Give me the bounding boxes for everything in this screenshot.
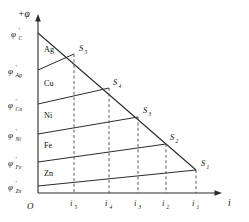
i-symbol-4: i <box>105 198 108 208</box>
band-label-ag: Ag <box>44 45 54 54</box>
band-label-cu: Cu <box>44 79 54 88</box>
anodic-line-ag <box>38 54 74 70</box>
potential-prime-cu: ′ <box>16 97 18 105</box>
potential-subscript-ni: Ni <box>15 136 22 142</box>
potential-prime-zn: ′ <box>16 179 18 187</box>
s-symbol-1: S <box>201 159 206 168</box>
potential-subscript-fe: Fe <box>15 164 22 170</box>
i-symbol-1: i <box>192 198 195 208</box>
potential-prime-c: ′ <box>19 26 21 34</box>
potential-symbol-ag: φ <box>8 66 13 76</box>
potential-subscript-zn: Zn <box>16 188 22 194</box>
i-subscript-5: 5 <box>75 204 78 210</box>
s-subscript-2: 2 <box>176 138 179 144</box>
s-subscript-1: 1 <box>207 164 210 170</box>
potential-symbol-c: φ <box>11 29 16 39</box>
potential-subscript-cu: Cu <box>16 106 23 112</box>
intersection-label-s2: S 2 <box>170 133 179 144</box>
potential-label-ag: φ ′ Ag <box>8 63 22 78</box>
anodic-line-fe <box>38 144 166 162</box>
intersection-label-s1: S 1 <box>201 159 210 170</box>
origin-label: O <box>27 201 34 211</box>
x-axis-label: i <box>228 198 231 208</box>
anodic-line-ni <box>38 117 138 134</box>
s-symbol-4: S <box>113 78 118 87</box>
diagram-svg: +φ i O φ ′ C φ ′ Ag φ ′ Cu φ ′ Ni φ ′ <box>0 0 249 222</box>
anodic-line-cu <box>38 88 109 104</box>
potential-label-fe: φ ′ Fe <box>8 155 22 170</box>
potential-symbol-fe: φ <box>8 158 13 168</box>
potential-subscript-c: C <box>19 35 23 41</box>
potential-label-c: φ ′ C <box>11 26 23 41</box>
cathodic-polarization-line <box>38 33 196 170</box>
s-symbol-3: S <box>143 106 148 115</box>
current-tick-i1: i 1 <box>192 198 200 210</box>
i-symbol-5: i <box>70 198 73 208</box>
band-label-fe: Fe <box>44 141 53 150</box>
intersection-label-s5: S 5 <box>79 44 88 55</box>
s-symbol-5: S <box>79 44 84 53</box>
current-tick-i3: i 3 <box>134 198 142 210</box>
potential-symbol-zn: φ <box>8 182 13 192</box>
i-subscript-4: 4 <box>110 204 113 210</box>
intersection-label-s3: S 3 <box>143 106 152 117</box>
current-tick-i2: i 2 <box>162 198 170 210</box>
potential-symbol-ni: φ <box>8 130 13 140</box>
potential-prime-ag: ′ <box>16 63 18 71</box>
s-subscript-5: 5 <box>85 49 88 55</box>
s-subscript-4: 4 <box>119 83 122 89</box>
polarization-diagram: +φ i O φ ′ C φ ′ Ag φ ′ Cu φ ′ Ni φ ′ <box>0 0 249 222</box>
i-symbol-2: i <box>162 198 165 208</box>
band-label-ni: Ni <box>44 111 53 120</box>
potential-label-zn: φ ′ Zn <box>8 179 22 194</box>
y-axis-arrowhead <box>35 14 41 22</box>
i-subscript-1: 1 <box>197 204 200 210</box>
s-subscript-3: 3 <box>148 111 152 117</box>
intersection-label-s4: S 4 <box>113 78 122 89</box>
potential-prime-fe: ′ <box>16 155 18 163</box>
potential-symbol-cu: φ <box>8 100 13 110</box>
anodic-line-zn <box>38 170 196 186</box>
i-symbol-3: i <box>134 198 137 208</box>
x-axis-arrowhead <box>215 190 223 196</box>
potential-subscript-ag: Ag <box>15 72 22 78</box>
i-subscript-3: 3 <box>138 204 142 210</box>
i-subscript-2: 2 <box>167 204 170 210</box>
potential-prime-ni: ′ <box>16 127 18 135</box>
current-tick-i4: i 4 <box>105 198 113 210</box>
potential-label-ni: φ ′ Ni <box>8 127 21 142</box>
current-tick-i5: i 5 <box>70 198 78 210</box>
potential-label-cu: φ ′ Cu <box>8 97 22 112</box>
y-axis-label: +φ <box>18 9 30 19</box>
s-symbol-2: S <box>170 133 175 142</box>
band-label-zn: Zn <box>44 169 53 178</box>
